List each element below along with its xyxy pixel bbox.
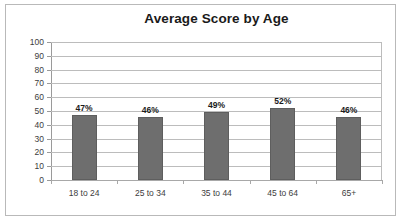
y-axis-tick-label: 0 <box>16 176 44 185</box>
y-axis-tick-label: 70 <box>16 79 44 88</box>
x-axis-tick-label: 35 to 44 <box>184 188 250 198</box>
x-axis-tick-mark <box>117 180 118 184</box>
bar-value-label: 46% <box>127 105 173 115</box>
y-axis-tick-label: 40 <box>16 121 44 130</box>
gridline <box>51 70 382 71</box>
bar <box>270 108 295 180</box>
x-axis-tick-mark <box>51 180 52 184</box>
y-axis-tick-label: 20 <box>16 148 44 157</box>
bar-value-label: 52% <box>260 96 306 106</box>
y-axis-tick-label: 30 <box>16 135 44 144</box>
y-axis-tick-label: 80 <box>16 66 44 75</box>
x-axis-tick-mark <box>250 180 251 184</box>
bar-value-label: 49% <box>194 100 240 110</box>
y-axis-tick-label: 10 <box>16 162 44 171</box>
y-axis-tick-label: 90 <box>16 52 44 61</box>
bar <box>138 117 163 180</box>
bar <box>336 117 361 180</box>
x-axis-tick-mark <box>382 180 383 184</box>
x-axis-tick-mark <box>316 180 317 184</box>
y-axis-tick-label: 50 <box>16 107 44 116</box>
x-axis-tick-label: 65+ <box>316 188 382 198</box>
y-axis-tick-label: 100 <box>16 38 44 47</box>
bar <box>72 115 97 180</box>
x-axis-tick-label: 45 to 64 <box>250 188 316 198</box>
bar-value-label: 46% <box>326 105 372 115</box>
gridline <box>51 83 382 84</box>
x-axis-tick-mark <box>183 180 184 184</box>
x-axis-tick-label: 25 to 34 <box>117 188 183 198</box>
gridline <box>51 42 382 43</box>
chart-title: Average Score by Age <box>51 11 382 27</box>
gridline <box>51 97 382 98</box>
bar <box>204 112 229 180</box>
chart-card: Average Score by Age 1009080706050403020… <box>0 0 409 223</box>
gridline <box>51 56 382 57</box>
bar-value-label: 47% <box>61 103 107 113</box>
x-axis-tick-label: 18 to 24 <box>51 188 117 198</box>
y-axis-tick-label: 60 <box>16 93 44 102</box>
gridline <box>51 180 382 181</box>
